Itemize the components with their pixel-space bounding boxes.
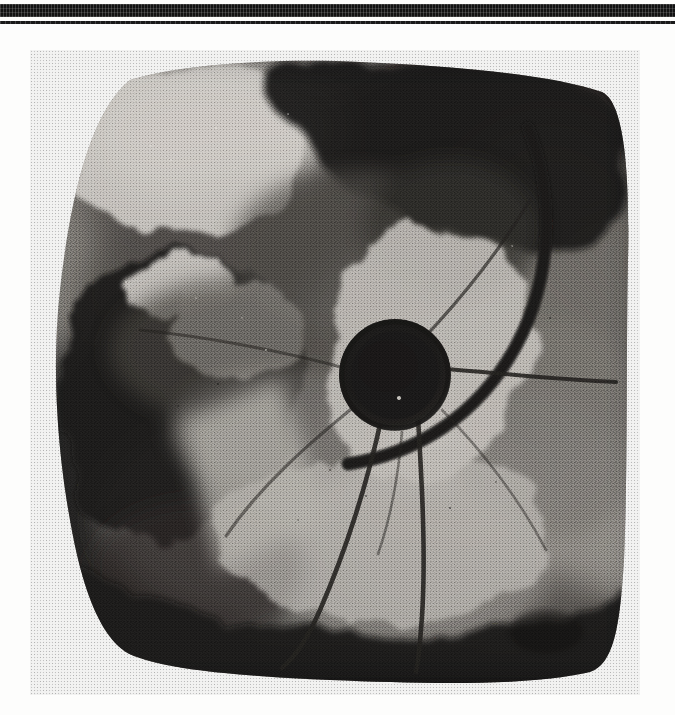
radiograph-figure	[30, 50, 640, 695]
scanned-page	[0, 0, 675, 715]
radiograph-plate	[30, 50, 640, 695]
header-thin-rule	[0, 21, 675, 24]
figure-stage	[0, 28, 675, 715]
plate-tone-unify	[30, 50, 640, 695]
header-thick-rule	[0, 4, 675, 17]
